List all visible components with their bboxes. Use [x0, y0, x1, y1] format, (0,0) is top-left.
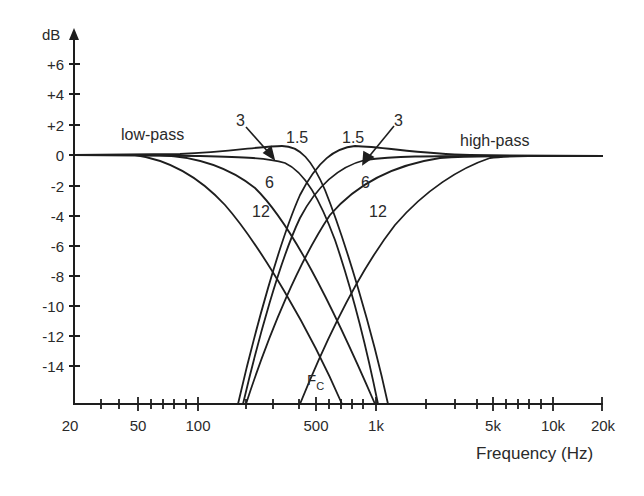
low-3-label: 3	[236, 112, 245, 129]
y-tick-label: -10	[42, 298, 64, 315]
high-pass-label: high-pass	[460, 132, 529, 149]
low-6-label: 6	[265, 174, 274, 191]
low-pass-curves	[74, 146, 388, 404]
low-12-label: 12	[252, 203, 270, 220]
x-tick-labels: 20 50 100 500 1k 5k 10k 20k Frequency (H…	[62, 417, 616, 463]
high-1.5-label: 1.5	[342, 129, 364, 146]
y-tick-label: -2	[51, 178, 64, 195]
low-pass-1.5-curve	[74, 146, 388, 404]
high-pass-6-curve	[246, 156, 603, 404]
high-pass-12-curve	[300, 156, 603, 404]
label-arrows	[246, 126, 394, 164]
high-pass-1.5-curve	[238, 146, 603, 404]
y-tick-label: +6	[47, 56, 64, 73]
x-tick-label: 20	[62, 417, 79, 434]
y-tick-label: -6	[51, 238, 64, 255]
high-12-label: 12	[369, 203, 387, 220]
low-pass-label: low-pass	[121, 126, 184, 143]
fc-subscript: C	[316, 380, 324, 392]
high-pass-curves	[238, 146, 603, 404]
y-tick-label: -8	[51, 268, 64, 285]
high-pass-3-curve	[243, 156, 603, 404]
y-tick-label: -4	[51, 208, 64, 225]
y-tick-label: +2	[47, 117, 64, 134]
x-tick-label: 50	[130, 417, 147, 434]
crossover-chart: dB +6 +4 +2 0 -2 -4 -6 -8 -10 -12 -14	[0, 0, 644, 496]
y-tick-labels: dB +6 +4 +2 0 -2 -4 -6 -8 -10 -12 -14	[42, 26, 64, 375]
arrow-high-3	[367, 126, 394, 159]
high-6-label: 6	[361, 174, 370, 191]
fc-main: F	[307, 371, 316, 388]
y-tick-label: -12	[42, 328, 64, 345]
y-tick-label: 0	[56, 147, 64, 164]
x-tick-label: 500	[303, 417, 328, 434]
y-axis-label: dB	[42, 26, 60, 43]
low-1.5-label: 1.5	[286, 129, 308, 146]
y-tick-label: -14	[42, 358, 64, 375]
x-tick-label: 1k	[368, 417, 384, 434]
y-axis-arrow-icon	[69, 28, 79, 40]
axes	[69, 28, 603, 404]
low-pass-3-curve	[74, 155, 378, 404]
x-tick-label: 10k	[541, 417, 566, 434]
x-tick-label: 20k	[591, 417, 616, 434]
fc-label: FC	[307, 371, 324, 392]
x-tick-label: 100	[185, 417, 210, 434]
low-pass-6-curve	[74, 155, 375, 404]
y-tick-label: +4	[47, 86, 64, 103]
high-3-label: 3	[394, 112, 403, 129]
x-tick-label: 5k	[485, 417, 501, 434]
x-axis-label: Frequency (Hz)	[476, 444, 593, 463]
